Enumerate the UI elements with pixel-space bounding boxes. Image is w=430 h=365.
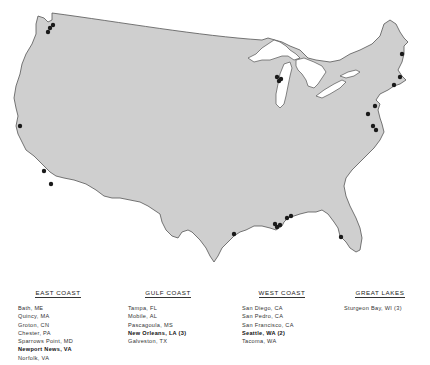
- shipyard-marker-icon: [400, 52, 404, 56]
- shipyard-marker-icon: [366, 112, 370, 116]
- legend-list-great-lakes: Sturgeon Bay, WI (3): [344, 304, 416, 312]
- shipyard-marker-icon: [289, 214, 293, 218]
- shipyard-marker-icon: [373, 104, 377, 108]
- shipyard-marker-icon: [398, 75, 402, 79]
- legend-item: Mobile, AL: [128, 312, 208, 320]
- shipyard-marker-icon: [51, 23, 55, 27]
- shipyard-marker-icon: [392, 83, 396, 87]
- legend-item: Seattle, WA (2): [242, 329, 322, 337]
- legend-list-east-coast: Bath, MEQuincy, MAGroton, CNChester, PAS…: [18, 304, 98, 362]
- shipyard-marker-icon: [46, 30, 50, 34]
- shipyard-marker-icon: [285, 216, 289, 220]
- legend-item: Sturgeon Bay, WI (3): [344, 304, 416, 312]
- shipyard-marker-icon: [49, 182, 53, 186]
- legend-item: Bath, ME: [18, 304, 98, 312]
- shipyard-marker-icon: [232, 232, 236, 236]
- legend-item: Chester, PA: [18, 329, 98, 337]
- legend-item: Norfolk, VA: [18, 354, 98, 362]
- legend-list-gulf-coast: Tampa, FLMobile, ALPascagoula, MSNew Orl…: [128, 304, 208, 345]
- us-map: [0, 0, 430, 270]
- legend-item: San Diego, CA: [242, 304, 322, 312]
- legend-title-gulf-coast: GULF COAST: [145, 289, 191, 298]
- shipyard-marker-icon: [275, 75, 279, 79]
- legend-item: Tacoma, WA: [242, 337, 322, 345]
- legend-item: New Orleans, LA (3): [128, 329, 208, 337]
- legend-item: San Francisco, CA: [242, 321, 322, 329]
- legend-item: Quincy, MA: [18, 312, 98, 320]
- legend-item: Galveston, TX: [128, 337, 208, 345]
- legend-column-gulf-coast: GULF COAST Tampa, FLMobile, ALPascagoula…: [128, 281, 208, 345]
- legend-item: Newport News, VA: [18, 345, 98, 353]
- shipyard-marker-icon: [339, 235, 343, 239]
- us-landmass: [14, 13, 408, 262]
- legend-item: Tampa, FL: [128, 304, 208, 312]
- legend-column-east-coast: EAST COAST Bath, MEQuincy, MAGroton, CNC…: [18, 281, 98, 362]
- shipyard-marker-icon: [42, 169, 46, 173]
- shipyard-marker-icon: [277, 79, 281, 83]
- legend-item: Sparrows Point, MD: [18, 337, 98, 345]
- legend-title-great-lakes: GREAT LAKES: [355, 289, 404, 298]
- legend: EAST COAST Bath, MEQuincy, MAGroton, CNC…: [0, 281, 430, 365]
- shipyard-marker-icon: [18, 124, 22, 128]
- legend-title-east-coast: EAST COAST: [35, 289, 80, 298]
- legend-item: Groton, CN: [18, 321, 98, 329]
- legend-title-west-coast: WEST COAST: [259, 289, 306, 298]
- legend-item: San Pedro, CA: [242, 312, 322, 320]
- legend-column-great-lakes: GREAT LAKES Sturgeon Bay, WI (3): [344, 281, 416, 312]
- legend-list-west-coast: San Diego, CASan Pedro, CASan Francisco,…: [242, 304, 322, 345]
- legend-column-west-coast: WEST COAST San Diego, CASan Pedro, CASan…: [242, 281, 322, 345]
- shipyard-marker-icon: [278, 223, 282, 227]
- shipyard-marker-icon: [374, 128, 378, 132]
- shipyard-marker-icon: [371, 124, 375, 128]
- legend-item: Pascagoula, MS: [128, 321, 208, 329]
